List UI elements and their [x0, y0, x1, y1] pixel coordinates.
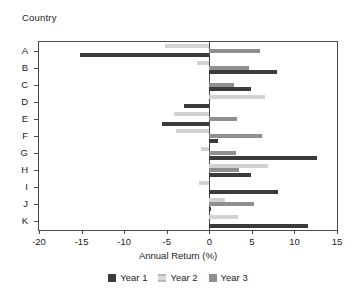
bar-k-y2 [209, 215, 238, 219]
bar-d-y2 [209, 95, 265, 99]
legend-swatch-y2 [158, 274, 166, 282]
legend-item-y1[interactable]: Year 1 [108, 272, 147, 283]
y-tick-j [34, 204, 38, 205]
bar-h-y2 [209, 164, 268, 168]
x-tick-label-10: 10 [274, 236, 314, 247]
bar-h-y1 [209, 173, 251, 177]
y-tick-label-f: F [6, 130, 28, 141]
bar-j-y3 [209, 202, 254, 206]
y-tick-label-h: H [6, 164, 28, 175]
legend-label-y2: Year 2 [170, 272, 197, 283]
x-tick-neg15 [82, 230, 83, 234]
y-tick-label-d: D [6, 96, 28, 107]
bar-f-y1 [209, 139, 218, 143]
bar-b-y1 [209, 70, 276, 74]
legend-item-y3[interactable]: Year 3 [209, 272, 248, 283]
y-tick-b [34, 68, 38, 69]
bar-f-y3 [209, 134, 262, 138]
bar-group-d [39, 93, 337, 110]
y-tick-label-c: C [6, 79, 28, 90]
x-tick-neg10 [124, 230, 125, 234]
bar-e-y1 [162, 122, 210, 126]
y-axis-title: Country [22, 12, 57, 23]
x-tick-label-neg5: -5 [147, 236, 187, 247]
legend-label-y1: Year 1 [120, 272, 147, 283]
bar-g-y2 [201, 147, 210, 151]
x-tick-label-neg10: -10 [104, 236, 144, 247]
bar-h-y3 [209, 168, 239, 172]
x-tick-label-15: 15 [317, 236, 356, 247]
bar-e-y3 [209, 117, 236, 121]
y-tick-h [34, 170, 38, 171]
bar-c-y1 [209, 87, 251, 91]
bar-d-y1 [184, 104, 210, 108]
bar-group-c [39, 76, 337, 93]
x-tick-label-0: 0 [189, 236, 229, 247]
bar-k-y1 [209, 224, 308, 228]
y-tick-label-g: G [6, 147, 28, 158]
bar-group-b [39, 59, 337, 76]
bar-group-f [39, 127, 337, 144]
bar-b-y3 [209, 66, 249, 70]
y-tick-d [34, 102, 38, 103]
bar-group-g [39, 145, 337, 162]
bar-e-y2 [174, 112, 210, 116]
x-tick-15 [337, 230, 338, 234]
bar-group-a [39, 42, 337, 59]
bar-a-y1 [80, 53, 209, 57]
x-tick-label-5: 5 [232, 236, 272, 247]
y-tick-k [34, 221, 38, 222]
x-tick-label-neg20: -20 [19, 236, 59, 247]
plot-area [38, 41, 338, 231]
bar-group-k [39, 213, 337, 230]
bar-b-y2 [197, 61, 210, 65]
bar-group-h [39, 162, 337, 179]
chart-legend: Year 1Year 2Year 3 [0, 272, 356, 283]
chart-root: Country ABCDEFGHIJK -20-15-10-5051015 An… [0, 0, 356, 300]
x-axis-title: Annual Return (%) [0, 250, 356, 261]
y-tick-label-b: B [6, 62, 28, 73]
x-tick-label-neg15: -15 [62, 236, 102, 247]
bar-a-y2 [165, 44, 209, 48]
y-tick-label-i: I [6, 181, 28, 192]
y-tick-e [34, 119, 38, 120]
legend-label-y3: Year 3 [221, 272, 248, 283]
y-tick-label-k: K [6, 215, 28, 226]
plot-inner [39, 42, 337, 230]
y-tick-f [34, 136, 38, 137]
bar-group-i [39, 179, 337, 196]
x-tick-10 [294, 230, 295, 234]
bar-j-y2 [209, 198, 224, 202]
bar-f-y2 [176, 129, 209, 133]
legend-item-y2[interactable]: Year 2 [158, 272, 197, 283]
bar-c-y3 [209, 83, 234, 87]
y-tick-a [34, 51, 38, 52]
y-tick-label-j: J [6, 198, 28, 209]
bar-i-y1 [209, 190, 278, 194]
bar-i-y2 [199, 181, 209, 185]
x-tick-neg5 [167, 230, 168, 234]
legend-swatch-y3 [209, 274, 217, 282]
y-tick-c [34, 85, 38, 86]
x-tick-0 [209, 230, 210, 234]
bar-group-e [39, 110, 337, 127]
bar-group-j [39, 196, 337, 213]
x-tick-5 [252, 230, 253, 234]
bar-j-y1 [209, 207, 211, 211]
y-tick-g [34, 153, 38, 154]
y-tick-label-a: A [6, 45, 28, 56]
bar-g-y1 [209, 156, 317, 160]
bar-g-y3 [209, 151, 235, 155]
y-tick-i [34, 187, 38, 188]
legend-swatch-y1 [108, 274, 116, 282]
bar-a-y3 [209, 49, 260, 53]
y-tick-label-e: E [6, 113, 28, 124]
x-tick-neg20 [39, 230, 40, 234]
